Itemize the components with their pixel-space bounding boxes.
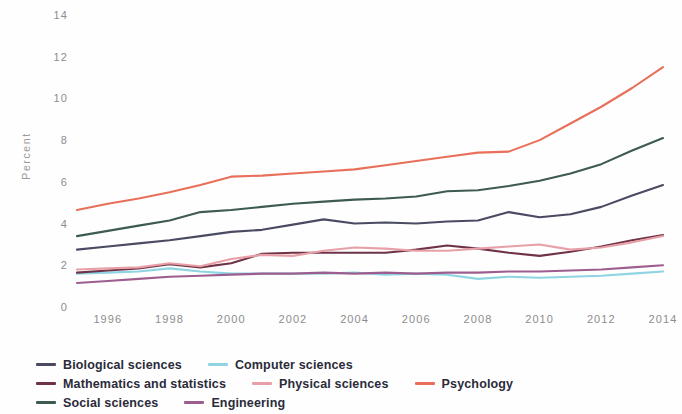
y-axis: Percent 02468101214 <box>12 0 68 414</box>
legend-swatch-icon <box>36 401 56 404</box>
legend-swatch-icon <box>36 382 56 385</box>
plot-area <box>77 15 663 307</box>
series-line-social-sciences <box>77 138 663 236</box>
legend-label: Biological sciences <box>63 358 182 372</box>
y-tick-label: 4 <box>38 219 68 230</box>
legend-swatch-icon <box>208 363 228 366</box>
y-tick-label: 2 <box>38 260 68 271</box>
legend-label: Psychology <box>442 377 514 391</box>
x-tick-label: 2010 <box>510 314 570 325</box>
x-tick-label: 2014 <box>633 314 682 325</box>
legend-swatch-icon <box>252 382 272 385</box>
legend-item-mathematics-and-statistics[interactable]: Mathematics and statistics <box>36 377 226 391</box>
legend-item-computer-sciences[interactable]: Computer sciences <box>208 358 353 372</box>
legend-swatch-icon <box>36 363 56 366</box>
legend-label: Computer sciences <box>235 358 353 372</box>
legend-item-social-sciences[interactable]: Social sciences <box>36 396 158 410</box>
y-axis-title: Percent <box>20 126 32 186</box>
x-tick-label: 2008 <box>448 314 508 325</box>
legend-item-biological-sciences[interactable]: Biological sciences <box>36 358 182 372</box>
chart-plot-svg <box>77 15 663 307</box>
legend-label: Social sciences <box>63 396 158 410</box>
x-tick-label: 2002 <box>263 314 323 325</box>
legend-swatch-icon <box>415 382 435 385</box>
y-tick-label: 12 <box>38 52 68 63</box>
x-tick-label: 1996 <box>78 314 138 325</box>
x-axis: 1996199820002002200420062008201020122014 <box>0 314 682 334</box>
legend-row: Social sciencesEngineering <box>36 393 676 412</box>
chart-legend: Biological sciencesComputer sciencesMath… <box>36 355 676 412</box>
x-tick-label: 2006 <box>386 314 446 325</box>
y-tick-label: 14 <box>38 10 68 21</box>
x-tick-label: 2012 <box>571 314 631 325</box>
legend-label: Physical sciences <box>279 377 389 391</box>
legend-row: Biological sciencesComputer sciences <box>36 355 676 374</box>
legend-label: Engineering <box>211 396 285 410</box>
x-tick-label: 2004 <box>325 314 385 325</box>
y-tick-label: 10 <box>38 93 68 104</box>
line-chart-figure: Percent 02468101214 19961998200020022004… <box>0 0 682 414</box>
y-tick-label: 8 <box>38 135 68 146</box>
series-line-biological-sciences <box>77 185 663 250</box>
x-tick-label: 2000 <box>201 314 261 325</box>
legend-label: Mathematics and statistics <box>63 377 226 391</box>
x-tick-label: 1998 <box>140 314 200 325</box>
y-tick-label: 0 <box>38 302 68 313</box>
legend-item-psychology[interactable]: Psychology <box>415 377 514 391</box>
legend-item-physical-sciences[interactable]: Physical sciences <box>252 377 389 391</box>
y-tick-label: 6 <box>38 177 68 188</box>
series-line-psychology <box>77 67 663 210</box>
legend-swatch-icon <box>184 401 204 404</box>
legend-row: Mathematics and statisticsPhysical scien… <box>36 374 676 393</box>
legend-item-engineering[interactable]: Engineering <box>184 396 285 410</box>
